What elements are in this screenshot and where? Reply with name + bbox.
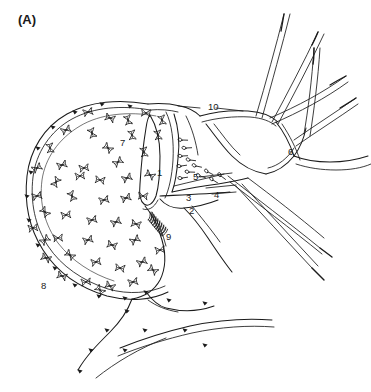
chromosome-glyph xyxy=(51,176,61,187)
chromosome-glyph xyxy=(99,196,110,205)
boundary-node xyxy=(182,328,187,332)
chromosome-glyph xyxy=(87,128,97,139)
boundary-node xyxy=(202,343,207,347)
chromosome-glyph-group xyxy=(28,108,166,296)
label-10: 10 xyxy=(208,101,219,112)
chromosome-glyph xyxy=(128,130,136,140)
chromosome-glyph xyxy=(60,125,71,135)
chromosome-glyph xyxy=(110,217,121,227)
boundary-node xyxy=(104,328,109,332)
sac-inner-membrane xyxy=(41,114,156,281)
chromosome-glyph xyxy=(147,265,158,276)
chromosome-glyph xyxy=(81,278,91,286)
chromosome-glyph xyxy=(83,235,94,244)
boundary-node xyxy=(50,125,55,129)
chromosome-glyph xyxy=(141,109,151,117)
boundary-node xyxy=(122,296,127,300)
chromosome-glyph xyxy=(124,115,133,126)
label-1: 1 xyxy=(157,167,162,178)
chromosome-glyph xyxy=(136,257,147,267)
boundary-node xyxy=(142,328,147,332)
label-5: 5 xyxy=(193,171,198,182)
anatomy-line-drawing: 12345678910 xyxy=(0,0,371,392)
chromosome-glyph xyxy=(131,220,142,229)
right-trunk xyxy=(200,111,371,174)
oocyte-glyph xyxy=(192,162,202,171)
boundary-node xyxy=(72,110,77,114)
boundary-node xyxy=(35,146,40,150)
chromosome-glyph xyxy=(91,258,101,267)
figure-panel-a: (A) xyxy=(0,0,371,392)
chromosome-glyph xyxy=(64,249,75,260)
boundary-node xyxy=(202,301,207,305)
lower-right-tubules xyxy=(228,176,332,280)
chromosome-glyph xyxy=(144,170,155,180)
boundary-node xyxy=(122,348,127,352)
oocyte-glyph-group xyxy=(177,136,226,185)
chromosome-glyph xyxy=(61,211,71,219)
chromosome-glyph xyxy=(154,130,162,140)
chromosome-glyph xyxy=(39,234,50,245)
chromosome-glyph xyxy=(46,143,54,153)
chromosome-glyph xyxy=(112,157,123,168)
oocyte-glyph xyxy=(217,171,225,181)
chromosome-glyph xyxy=(57,160,68,170)
boundary-node xyxy=(24,194,29,198)
oocyte-glyph xyxy=(178,175,188,182)
boundary-node xyxy=(28,170,33,174)
oocyte-glyph xyxy=(177,163,187,170)
chromosome-glyph xyxy=(121,193,132,203)
chromosome-glyph xyxy=(115,264,125,272)
chromosome-glyph xyxy=(128,278,139,287)
label-9: 9 xyxy=(166,231,171,242)
boundary-node xyxy=(77,369,82,373)
chromosome-glyph xyxy=(158,115,167,125)
chromosome-glyph xyxy=(39,206,50,217)
bottom-ducts xyxy=(78,292,274,378)
chromosome-glyph xyxy=(95,176,105,184)
boundary-node xyxy=(72,283,77,287)
lower-chamber-2 xyxy=(132,199,232,299)
chromosome-glyph xyxy=(32,192,43,201)
chromosome-glyph xyxy=(53,234,63,242)
chromosome-glyph xyxy=(140,147,148,157)
label-8: 8 xyxy=(41,280,46,291)
label-4: 4 xyxy=(214,189,219,200)
chromosome-glyph xyxy=(107,240,118,249)
label-3: 3 xyxy=(186,192,191,203)
chromosome-glyph xyxy=(67,190,77,201)
chromosome-glyph xyxy=(87,216,98,225)
chromosome-glyph xyxy=(83,108,94,117)
leader-line xyxy=(178,106,200,108)
chromosome-glyph xyxy=(155,246,165,254)
label-6: 6 xyxy=(288,146,293,157)
label-7: 7 xyxy=(120,137,125,148)
label-2: 2 xyxy=(189,205,194,216)
oocyte-glyph xyxy=(182,145,192,152)
upper-right-tubules xyxy=(256,14,358,146)
leader-line xyxy=(200,173,232,177)
chromosome-glyph xyxy=(102,142,113,153)
boundary-node xyxy=(166,298,171,302)
oocyte-glyph xyxy=(185,156,195,164)
chromosome-glyph xyxy=(75,172,85,180)
sac-outer-wall xyxy=(26,101,168,299)
chromosome-glyph xyxy=(121,173,132,183)
chromosome-glyph xyxy=(129,235,140,245)
chromosome-glyph xyxy=(79,164,89,172)
